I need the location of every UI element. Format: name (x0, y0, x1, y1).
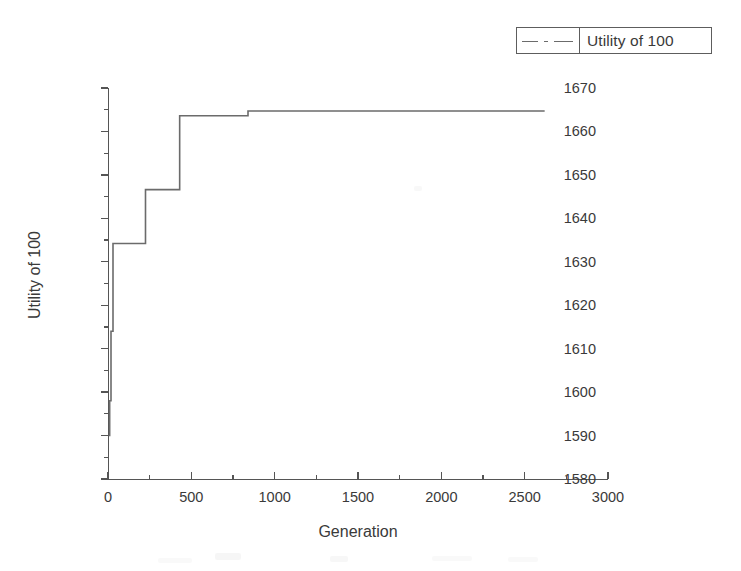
x-axis-tick-label: 2500 (509, 489, 541, 505)
y-axis-tick-label: 1650 (564, 167, 596, 183)
y-axis-minor-tick (104, 370, 108, 371)
y-axis-minor-tick (104, 153, 108, 154)
y-axis-title-label: Utility of 100 (26, 231, 44, 319)
x-axis-major-tick (607, 472, 608, 479)
y-axis-major-tick (101, 218, 108, 219)
x-axis-line (108, 479, 608, 480)
y-axis-tick-label: 1620 (564, 297, 596, 313)
y-axis-minor-tick (104, 457, 108, 458)
y-axis-tick-label: 1640 (564, 210, 596, 226)
y-axis-major-tick (101, 435, 108, 436)
y-axis-tick-label: 1590 (564, 428, 596, 444)
y-axis-tick-label: 1670 (564, 80, 596, 96)
y-axis-tick-label: 1600 (564, 384, 596, 400)
x-axis-tick-label: 500 (179, 489, 203, 505)
x-axis-minor-tick (482, 475, 483, 479)
plot-area: 1580159016001610162016301640165016601670… (108, 88, 608, 479)
x-axis-minor-tick (232, 475, 233, 479)
x-axis-tick-label: 1000 (259, 489, 291, 505)
series-layer (108, 88, 608, 479)
x-axis-minor-tick (566, 475, 567, 479)
y-axis-minor-tick (104, 283, 108, 284)
y-axis-tick-label: 1630 (564, 254, 596, 270)
y-axis-tick-label: 1580 (564, 471, 596, 487)
x-axis-tick-label: 1500 (342, 489, 374, 505)
y-axis-minor-tick (104, 239, 108, 240)
x-axis-minor-tick (149, 475, 150, 479)
x-axis-major-tick (274, 472, 275, 479)
scan-artifact (432, 556, 472, 561)
y-axis-tick-label: 1610 (564, 341, 596, 357)
y-axis-major-tick (101, 261, 108, 262)
y-axis-major-tick (101, 305, 108, 306)
y-axis-major-tick (101, 87, 108, 88)
legend-entry-label: Utility of 100 (580, 32, 674, 50)
y-axis-tick-label: 1660 (564, 123, 596, 139)
x-axis-tick-label: 3000 (592, 489, 624, 505)
scan-artifact (330, 556, 348, 562)
scan-artifact (158, 558, 192, 563)
chart-legend: Utility of 100 (516, 27, 712, 54)
y-axis-title: Utility of 100 (24, 175, 46, 375)
y-axis-minor-tick (104, 109, 108, 110)
x-axis-title-label: Generation (108, 523, 608, 541)
y-axis-major-tick (101, 348, 108, 349)
x-axis-major-tick (441, 472, 442, 479)
x-axis-major-tick (107, 472, 108, 479)
y-axis-major-tick (101, 174, 108, 175)
y-axis-major-tick (101, 391, 108, 392)
scan-artifact (414, 186, 422, 191)
legend-line-sample-icon (517, 28, 580, 53)
figure-canvas: Utility of 100 Utility of 100 1580159016… (0, 0, 741, 571)
x-axis-major-tick (524, 472, 525, 479)
y-axis-minor-tick (104, 413, 108, 414)
y-axis-minor-tick (104, 326, 108, 327)
scan-artifact (215, 553, 241, 560)
scan-artifact (508, 557, 538, 562)
x-axis-tick-label: 0 (104, 489, 112, 505)
x-axis-major-tick (357, 472, 358, 479)
x-axis-minor-tick (316, 475, 317, 479)
x-axis-minor-tick (399, 475, 400, 479)
y-axis-minor-tick (104, 196, 108, 197)
x-axis-tick-label: 2000 (425, 489, 457, 505)
x-axis-major-tick (191, 472, 192, 479)
y-axis-major-tick (101, 131, 108, 132)
series-line-utility-of-100 (109, 111, 545, 436)
